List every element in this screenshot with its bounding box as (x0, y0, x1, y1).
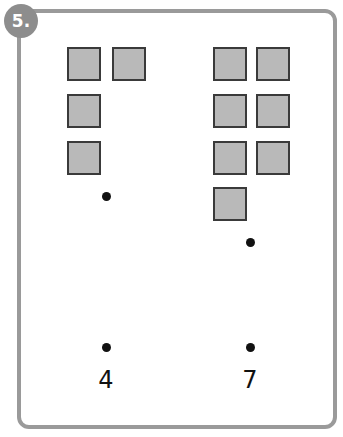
left-dot (102, 192, 111, 201)
exercise-number-badge: 5. (4, 4, 38, 38)
right-dot (246, 343, 255, 352)
right-square (256, 141, 290, 175)
right-count-label: 7 (235, 366, 265, 394)
right-square (213, 47, 247, 81)
right-dot (246, 238, 255, 247)
left-square (67, 141, 101, 175)
right-square (213, 94, 247, 128)
right-square (256, 94, 290, 128)
left-square (67, 47, 101, 81)
left-square (67, 94, 101, 128)
right-square (213, 141, 247, 175)
right-square (213, 187, 247, 221)
left-square (112, 47, 146, 81)
right-square (256, 47, 290, 81)
left-dot (102, 343, 111, 352)
left-count-label: 4 (91, 366, 121, 394)
